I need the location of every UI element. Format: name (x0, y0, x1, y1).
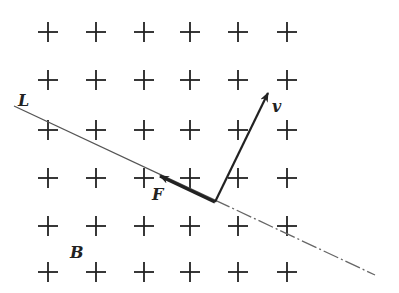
field-marker-plus-icon (38, 216, 58, 236)
field-marker-plus-icon (180, 22, 200, 42)
field-marker-plus-icon (38, 262, 58, 282)
field-marker-plus-icon (86, 168, 106, 188)
field-marker-plus-icon (134, 22, 154, 42)
line-l (14, 106, 375, 275)
field-marker-plus-icon (228, 120, 248, 140)
line-label: L (17, 91, 29, 110)
magnetic-field-diagram: L v F B (0, 0, 399, 293)
velocity-label: v (272, 97, 282, 116)
field-marker-plus-icon (180, 262, 200, 282)
field-marker-plus-icon (228, 216, 248, 236)
field-marker-plus-icon (86, 262, 106, 282)
field-marker-plus-icon (134, 216, 154, 236)
field-marker-plus-icon (86, 70, 106, 90)
field-marker-plus-icon (277, 262, 297, 282)
field-marker-plus-icon (134, 262, 154, 282)
field-marker-plus-icon (86, 22, 106, 42)
field-marker-plus-icon (277, 22, 297, 42)
field-marker-plus-icon (38, 70, 58, 90)
field-marker-plus-icon (277, 168, 297, 188)
force-label: F (151, 185, 165, 204)
field-marker-plus-icon (134, 120, 154, 140)
field-marker-plus-icon (228, 22, 248, 42)
field-marker-plus-icon (277, 120, 297, 140)
field-marker-plus-icon (86, 120, 106, 140)
field-marker-plus-icon (38, 120, 58, 140)
field-marker-plus-icon (277, 70, 297, 90)
force-vector-arrow (160, 176, 215, 202)
field-marker-plus-icon (134, 70, 154, 90)
field-marker-plus-icon (228, 262, 248, 282)
field-marker-plus-icon (228, 70, 248, 90)
velocity-vector-arrow (215, 93, 268, 202)
field-marker-plus-icon (180, 70, 200, 90)
field-marker-plus-icon (38, 168, 58, 188)
field-marker-plus-icon (180, 216, 200, 236)
field-marker-plus-icon (134, 168, 154, 188)
field-label: B (69, 243, 84, 262)
field-marker-plus-icon (277, 216, 297, 236)
field-marker-plus-icon (38, 22, 58, 42)
field-marker-plus-icon (180, 120, 200, 140)
field-marker-plus-icon (86, 216, 106, 236)
